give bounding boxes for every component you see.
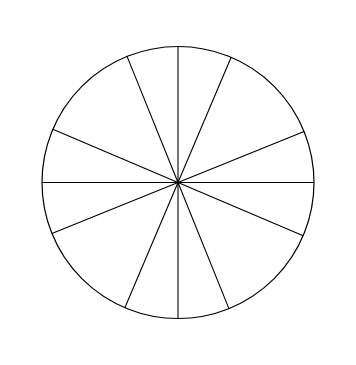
axes-group bbox=[42, 47, 314, 319]
polar-chart bbox=[0, 0, 356, 365]
polar-plot-canvas bbox=[0, 0, 356, 365]
